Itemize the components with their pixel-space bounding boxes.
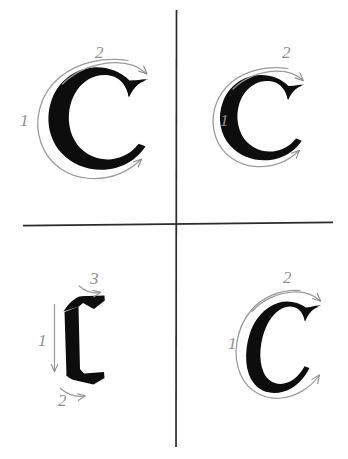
stroke-order-figure: 1 2 1 2 1 <box>0 0 348 459</box>
panel-top-left: 1 2 <box>20 43 149 179</box>
stroke-label-2-bottom-left: 2 <box>58 391 67 410</box>
stroke-label-1-bottom-left: 1 <box>38 331 47 350</box>
panel-bottom-right: 1 2 <box>228 268 321 398</box>
glyph-c-bottom-left-stem <box>65 307 81 376</box>
divider-horizontal <box>23 222 333 225</box>
stroke-label-1-bottom-right: 1 <box>228 334 237 353</box>
panel-top-right: 1 2 <box>213 43 304 167</box>
stroke-label-3-bottom-left: 3 <box>89 269 99 288</box>
divider-vertical <box>176 10 177 447</box>
stroke-label-1-top-right: 1 <box>220 111 229 130</box>
stroke-label-2-top-right: 2 <box>282 43 291 62</box>
panel-bottom-left: 1 2 3 <box>38 269 105 410</box>
stroke-label-1-top-left: 1 <box>20 111 29 130</box>
stroke-label-2-top-left: 2 <box>95 43 104 62</box>
divider-lines <box>23 10 333 447</box>
stroke-label-2-bottom-right: 2 <box>283 268 292 287</box>
diagram-canvas: 1 2 1 2 1 <box>0 0 348 459</box>
